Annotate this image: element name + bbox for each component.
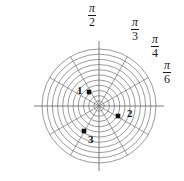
point-2-label: 2	[127, 108, 133, 119]
point-1-marker	[87, 90, 92, 95]
polar-plot-figure: π2π3π4π6 123	[0, 0, 184, 181]
angle-label-numerator: π	[151, 34, 159, 45]
point-3-marker	[82, 129, 87, 134]
axis-lines-group	[34, 41, 164, 171]
angle-label-denominator: 4	[151, 47, 159, 60]
point-3-label: 3	[88, 134, 94, 145]
angle-label-numerator: π	[163, 60, 171, 71]
angle-label-pi-over-6: π6	[163, 60, 171, 86]
angle-label-pi-over-4: π4	[151, 34, 159, 60]
angle-label-numerator: π	[131, 17, 139, 28]
angle-label-numerator: π	[88, 3, 96, 14]
angle-label-pi-over-3: π3	[131, 17, 139, 43]
angle-label-denominator: 3	[131, 30, 139, 43]
angle-label-pi-over-2: π2	[88, 3, 96, 29]
angle-label-denominator: 2	[88, 16, 96, 29]
point-1-label: 1	[77, 85, 83, 96]
angle-label-denominator: 6	[163, 73, 171, 86]
point-2-marker	[116, 114, 121, 119]
